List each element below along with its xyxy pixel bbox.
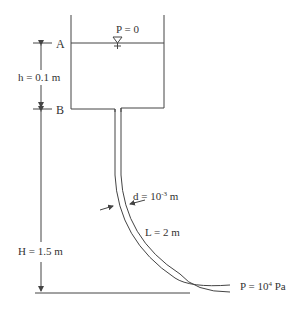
- label-height-H: H = 1.5 m: [18, 246, 63, 257]
- tank-tube-diagram: A B P = 0 h = 0.1 m H = 1.5 m d = 10-3 m…: [0, 0, 307, 310]
- diagram-drawing: [0, 0, 307, 310]
- label-point-a: A: [56, 38, 65, 50]
- label-outlet-pressure: P = 104 Pa: [240, 281, 286, 292]
- label-length: L = 2 m: [145, 227, 180, 238]
- diameter-text: d = 10: [133, 190, 161, 202]
- free-surface-icon: [113, 37, 122, 43]
- label-height-h: h = 0.1 m: [18, 72, 60, 83]
- label-diameter: d = 10-3 m: [133, 191, 178, 202]
- diameter-unit: m: [167, 190, 178, 202]
- outlet-unit: Pa: [272, 280, 286, 292]
- outlet-text: P = 10: [240, 280, 268, 292]
- label-point-b: B: [56, 104, 64, 116]
- label-surface-pressure: P = 0: [116, 24, 139, 35]
- tank-outline: [71, 15, 115, 112]
